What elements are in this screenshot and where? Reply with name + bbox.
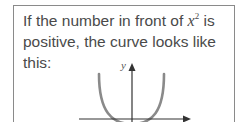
- x-axis-arrow-icon: [183, 116, 191, 123]
- parabola-graph: y: [0, 0, 250, 122]
- y-axis-label: y: [120, 59, 126, 71]
- y-axis-arrow-icon: [129, 63, 136, 71]
